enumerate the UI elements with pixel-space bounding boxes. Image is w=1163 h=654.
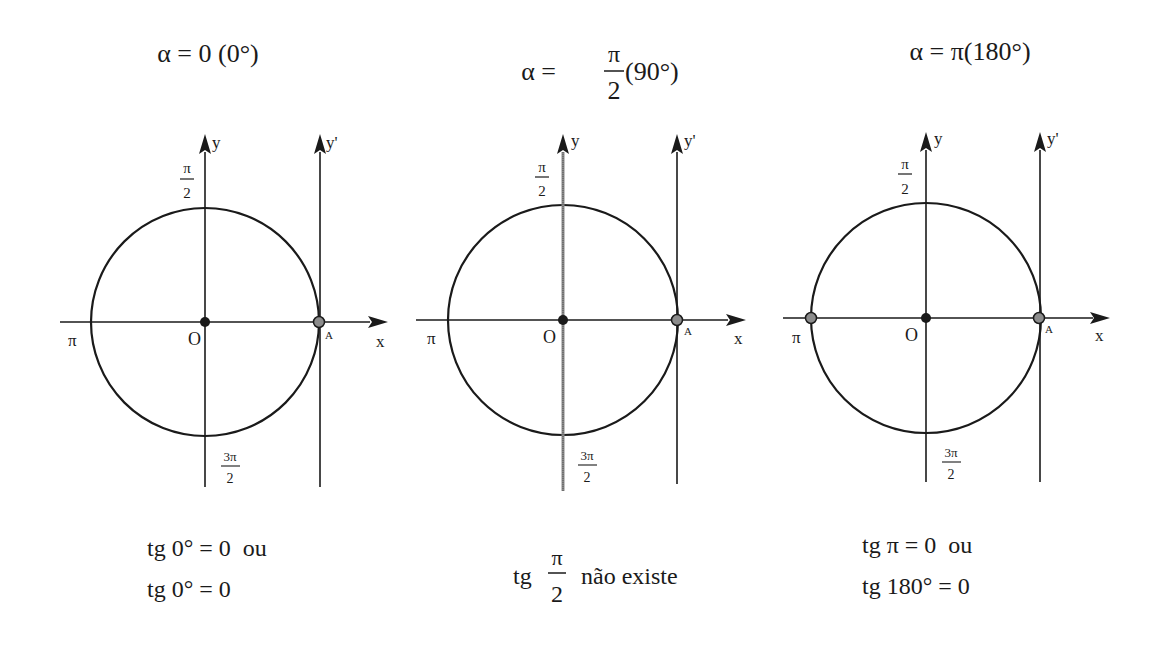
y-axis-label: y [571,131,580,150]
y-axis-label: y [934,129,943,148]
point-a-label: A [684,325,692,337]
panel-title-denominator: 2 [608,76,621,105]
tangent-axis-label: y' [684,131,696,150]
point-a [1034,313,1045,324]
half-pi-denominator: 2 [538,183,546,199]
result-line-1: tg π = 0 ou [862,532,972,558]
pi-label: π [68,331,77,350]
origin-label: O [543,327,556,347]
y-axis-arrow-icon [557,134,569,154]
panel-title-numerator: π [608,41,620,67]
point-a-label: A [1045,323,1053,335]
result-line-2: tg 0° = 0 [147,576,231,602]
origin-label: O [905,325,918,345]
panel-title-suffix: (90°) [625,57,679,86]
tangent-axis-label: y' [1047,129,1059,148]
pi-label: π [427,329,436,348]
x-axis-arrow-icon [726,314,746,326]
point-a [672,315,683,326]
half-pi-denominator: 2 [901,181,909,197]
y-axis-label: y [212,133,221,152]
result-prefix: tg [513,563,532,589]
tangent-axis-label: y' [326,133,338,152]
x-axis-label: x [376,332,385,351]
three-half-pi-numerator: 3π [944,445,958,460]
point-a [314,317,325,328]
x-axis-arrow-icon [368,316,388,328]
tangent-unit-circle-figure: α = 0 (0°) y y' x O A π π 2 3π 2 tg 0° =… [0,0,1163,654]
three-half-pi-denominator: 2 [948,467,955,482]
y-axis-arrow-icon [199,134,211,154]
result-numerator: π [551,545,562,570]
panel-title: α = π(180°) [909,37,1030,66]
three-half-pi-numerator: 3π [580,448,594,463]
panel-alpha-pi: α = π(180°) y y' x O A π π 2 3π 2 tg π =… [783,37,1110,599]
origin-point [200,317,210,327]
three-half-pi-numerator: 3π [223,449,237,464]
x-axis-label: x [734,329,743,348]
result-denominator: 2 [551,581,563,607]
point-a-label: A [325,329,333,341]
half-pi-numerator: π [183,160,191,176]
panel-title: α = 0 (0°) [157,39,259,68]
x-axis-label: x [1095,326,1104,345]
half-pi-numerator: π [901,156,909,172]
tangent-axis-arrow-icon [1034,132,1046,152]
tangent-axis-arrow-icon [314,134,326,154]
half-pi-denominator: 2 [183,185,191,201]
origin-point [921,313,931,323]
result-line-2: tg 180° = 0 [862,573,970,599]
panel-alpha-pi-over-2: α = π 2 (90°) y y' x O A π π 2 3π 2 tg π… [416,41,746,607]
three-half-pi-denominator: 2 [227,471,234,486]
panel-title-prefix: α = [521,57,556,86]
origin-point [558,315,568,325]
result-line-1: tg 0° = 0 ou [147,535,267,561]
y-axis-arrow-icon [920,132,932,152]
point-pi [806,313,817,324]
result-suffix: não existe [581,563,678,589]
three-half-pi-denominator: 2 [584,470,591,485]
origin-label: O [188,329,201,349]
half-pi-numerator: π [538,159,546,175]
pi-label: π [792,328,801,347]
tangent-axis-arrow-icon [671,134,683,154]
panel-alpha-0: α = 0 (0°) y y' x O A π π 2 3π 2 tg 0° =… [60,39,388,602]
